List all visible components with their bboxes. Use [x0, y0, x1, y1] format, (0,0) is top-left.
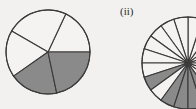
- figure-root: (ii): [0, 0, 196, 109]
- pie-chart-left: [6, 10, 90, 94]
- panel-label-ii: (ii): [120, 6, 133, 17]
- pie-figure-svg: [0, 0, 196, 109]
